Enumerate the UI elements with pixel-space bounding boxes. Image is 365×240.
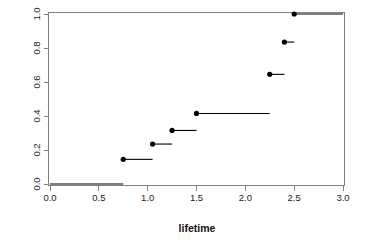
x-tick-label: 0.0 <box>43 192 56 203</box>
x-tick-label: 0.5 <box>92 192 105 203</box>
y-tick-label: 1.0 <box>31 7 42 20</box>
jump-point <box>150 141 155 146</box>
x-tick-label: 2.5 <box>288 192 301 203</box>
y-tick-label: 0.6 <box>31 75 42 88</box>
x-tick-label: 1.0 <box>141 192 154 203</box>
y-tick-label: 0.0 <box>31 177 42 190</box>
chart-background <box>0 0 365 240</box>
ecdf-chart-figure: 0.00.51.01.52.02.53.0 0.00.20.40.60.81.0… <box>0 0 365 240</box>
jump-point <box>194 111 199 116</box>
y-tick-label: 0.2 <box>31 143 42 156</box>
y-tick-label: 0.4 <box>31 109 42 122</box>
plot-canvas: 0.00.51.01.52.02.53.0 0.00.20.40.60.81.0… <box>0 0 365 240</box>
jump-point <box>169 128 174 133</box>
jump-point <box>292 11 297 16</box>
x-tick-label: 2.0 <box>239 192 252 203</box>
jump-point <box>267 72 272 77</box>
jump-point <box>282 39 287 44</box>
y-tick-label: 0.8 <box>31 41 42 54</box>
x-tick-label: 1.5 <box>190 192 203 203</box>
x-tick-label: 3.0 <box>336 192 349 203</box>
jump-point <box>121 157 126 162</box>
x-axis-title: lifetime <box>179 222 216 234</box>
